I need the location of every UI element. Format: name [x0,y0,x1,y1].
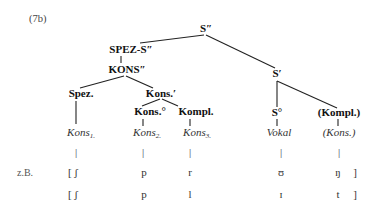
leaf-kons-optional: (Kons.) [323,127,356,138]
node-kons-double-bar: KONS″ [108,64,145,75]
row2-coda: t [336,189,339,200]
node-spez: Spez. [69,88,94,99]
leaf-kons1-base: Kons [67,126,90,138]
association-line-2: | [142,147,144,158]
leaf-kons2-base: Kons [133,126,156,138]
association-line-1: | [75,147,77,158]
leaf-kons3-sub: 3. [206,132,211,140]
example-label: z.B. [17,168,33,178]
leaf-kons1-sub: 1. [90,132,95,140]
node-s-double-bar: S″ [200,23,212,34]
leaf-kons2-sub: 2. [156,132,161,140]
row1-c3: r [188,167,192,178]
row1-onset: [ ʃ [68,167,78,178]
row1-coda: ŋ [335,167,340,178]
example-number: (7b) [29,14,47,25]
row1-close-bracket: ] [353,167,357,178]
row2-close-bracket: ] [353,189,357,200]
leaf-kons2: Kons2. [133,127,161,140]
association-line-3: | [189,147,191,158]
leaf-kons1: Kons1. [67,127,95,140]
row1-vowel: ʊ [278,167,284,178]
association-line-4: | [280,147,282,158]
node-s-zero: S° [272,107,283,118]
row2-c3: l [188,189,191,200]
node-kompl-optional: (Kompl.) [318,107,360,118]
node-kons-zero: Kons.° [134,106,166,117]
row1-c2: p [141,167,147,178]
row2-c2: p [141,189,147,200]
node-spez-s: SPEZ-S″ [109,44,152,55]
leaf-kons3: Kons3. [183,127,211,140]
row2-vowel: ɪ [279,189,282,200]
node-s-bar: S′ [272,68,281,79]
leaf-vokal: Vokal [267,127,291,138]
node-kons-bar: Kons.′ [146,88,176,99]
node-kompl: Kompl. [178,106,213,117]
row2-onset: [ ʃ [68,189,78,200]
association-line-5: | [338,147,340,158]
leaf-kons3-base: Kons [183,126,206,138]
